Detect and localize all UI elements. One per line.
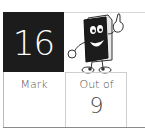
bottom-line	[3, 127, 145, 128]
score-value: 16	[13, 26, 54, 60]
mark-label: Mark	[3, 78, 65, 91]
book-mascot-icon	[64, 12, 130, 74]
table-top-border	[65, 72, 127, 73]
out-of-label: Out of	[66, 78, 127, 91]
out-of-value: 9	[66, 93, 127, 118]
score-box: 16	[3, 12, 64, 72]
